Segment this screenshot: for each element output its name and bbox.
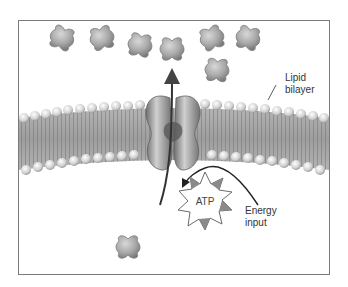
diagram-canvas: ATP Lipid bilayer Energy input bbox=[0, 0, 348, 287]
energy-input-label: Energy input bbox=[245, 205, 277, 229]
atp-label: ATP bbox=[196, 196, 215, 207]
energy-label-line2: input bbox=[245, 217, 277, 229]
lipid-label-line1: Lipid bbox=[285, 72, 314, 84]
lipid-label-line2: bilayer bbox=[285, 84, 314, 96]
lipid-bilayer-label: Lipid bilayer bbox=[285, 72, 314, 96]
energy-label-line1: Energy bbox=[245, 205, 277, 217]
solute-molecule-inside bbox=[116, 236, 140, 258]
